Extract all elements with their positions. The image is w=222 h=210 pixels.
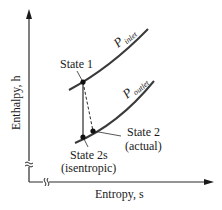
state-1-label: State 1 [60,57,93,71]
state-2-sublabel: (actual) [125,139,162,153]
svg-text:P: P [110,34,127,51]
svg-text:P: P [119,85,136,102]
svg-text:inlet: inlet [122,30,139,47]
state-2-label: State 2 [127,125,160,139]
state-2-leader [93,131,121,136]
p-inlet-label: P inlet [110,23,140,52]
y-axis [26,9,32,182]
state-2s-sublabel: (isentropic) [61,161,116,175]
x-axis-arrow-icon [204,179,214,185]
x-axis-break-icon [43,178,49,186]
x-axis [29,179,214,185]
state-2s-point [80,134,85,139]
actual-process-line [83,82,93,131]
hs-diagram: P inlet P outlet State 1 State 2s (isent… [0,0,222,210]
y-axis-break-icon [25,161,33,167]
y-axis-label: Enthalpy, h [9,75,23,130]
p-outlet-label: P outlet [119,72,152,104]
state-2s-label: State 2s [70,148,108,162]
x-axis-label: Entropy, s [95,187,144,201]
state-1-point [80,79,85,84]
state-2-point [90,128,95,133]
y-axis-arrow-icon [26,9,32,19]
